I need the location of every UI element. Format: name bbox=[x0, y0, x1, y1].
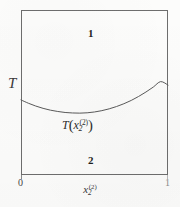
region-label-lower: 2 bbox=[88, 155, 94, 166]
x-axis-label-superscript: (2) bbox=[89, 183, 97, 190]
coexistence-curve-layer bbox=[21, 10, 168, 175]
curve-label: T(x2(2)) bbox=[62, 118, 93, 133]
y-axis-label: T bbox=[8, 76, 16, 91]
curve-label-superscript: (2) bbox=[79, 118, 88, 127]
coexistence-curve bbox=[21, 82, 168, 114]
curve-label-prefix: T bbox=[62, 118, 69, 132]
phase-diagram-figure: T 1 2 T(x2(2)) 0 1 x2(2) bbox=[0, 0, 180, 207]
curve-label-close-paren: ) bbox=[88, 117, 93, 133]
x-axis-label-subscript: 2 bbox=[88, 189, 92, 197]
region-label-upper: 1 bbox=[88, 28, 94, 39]
x-axis-label: x2(2) bbox=[0, 184, 180, 197]
